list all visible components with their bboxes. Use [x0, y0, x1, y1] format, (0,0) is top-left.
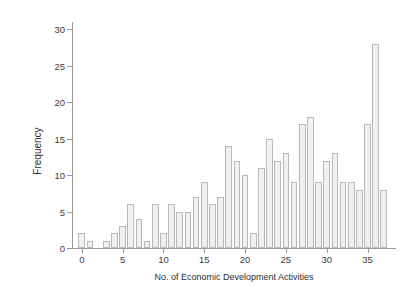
y-tick-label: 0 [60, 243, 65, 254]
y-tick-mark [67, 66, 72, 67]
x-tick-label: 20 [240, 254, 251, 265]
x-tick-label: 35 [362, 254, 373, 265]
y-tick-label: 15 [54, 133, 65, 144]
histogram-bar [250, 233, 257, 248]
histogram-bar [291, 182, 298, 248]
x-tick-mark [123, 248, 124, 253]
x-axis-title: No. of Economic Development Activities [72, 272, 396, 282]
x-tick-mark [245, 248, 246, 253]
histogram-bar [340, 182, 347, 248]
histogram-bar [225, 146, 232, 248]
histogram-bar [315, 182, 322, 248]
histogram-bar [127, 204, 134, 248]
x-tick-mark [327, 248, 328, 253]
histogram-bar [160, 233, 167, 248]
histogram-bar [168, 204, 175, 248]
histogram-bar [144, 241, 151, 248]
y-tick-label: 5 [60, 206, 65, 217]
histogram-bar [111, 233, 118, 248]
y-tick-label: 20 [54, 97, 65, 108]
x-axis-line [72, 248, 396, 249]
y-tick-mark [67, 29, 72, 30]
histogram-bar [356, 190, 363, 248]
histogram-bar [201, 182, 208, 248]
histogram-bar [136, 219, 143, 248]
histogram-bar [307, 117, 314, 248]
histogram-bar [87, 241, 94, 248]
histogram-bar [380, 190, 387, 248]
histogram-bar [274, 161, 281, 248]
histogram-bar [185, 212, 192, 248]
x-tick-mark [163, 248, 164, 253]
y-tick-mark [67, 102, 72, 103]
x-tick-mark [204, 248, 205, 253]
y-tick-label: 25 [54, 60, 65, 71]
histogram-bar [348, 182, 355, 248]
y-tick-label: 30 [54, 24, 65, 35]
x-tick-label: 25 [281, 254, 292, 265]
histogram-bar [364, 124, 371, 248]
y-tick-mark [67, 248, 72, 249]
histogram-bar [283, 153, 290, 248]
histogram-bar [372, 44, 379, 248]
histogram-bar [193, 197, 200, 248]
x-tick-mark [286, 248, 287, 253]
y-axis-title: Frequency [32, 127, 43, 174]
histogram-bar [266, 139, 273, 248]
histogram-chart: Frequency No. of Economic Development Ac… [0, 0, 420, 302]
x-tick-label: 0 [79, 254, 84, 265]
x-tick-label: 30 [321, 254, 332, 265]
y-tick-label: 10 [54, 170, 65, 181]
plot-area: 051015202530 05101520253035 [72, 22, 392, 248]
histogram-bar [217, 197, 224, 248]
histogram-bar [332, 153, 339, 248]
x-tick-label: 5 [120, 254, 125, 265]
histogram-bar [258, 168, 265, 248]
histogram-bar [152, 204, 159, 248]
x-tick-label: 15 [199, 254, 210, 265]
x-tick-label: 10 [158, 254, 169, 265]
histogram-bar [323, 161, 330, 248]
x-tick-mark [82, 248, 83, 253]
histogram-bar [103, 241, 110, 248]
histogram-bar [209, 204, 216, 248]
histogram-bar [242, 175, 249, 248]
histogram-bar [119, 226, 126, 248]
histogram-bar [176, 212, 183, 248]
histogram-bar [234, 161, 241, 248]
histogram-bar [78, 233, 85, 248]
histogram-bar [299, 124, 306, 248]
y-tick-mark [67, 139, 72, 140]
x-tick-mark [368, 248, 369, 253]
y-tick-mark [67, 175, 72, 176]
y-tick-mark [67, 212, 72, 213]
